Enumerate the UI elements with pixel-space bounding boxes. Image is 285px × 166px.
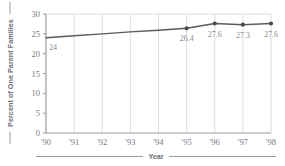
- data-point-value-label: 26.4: [180, 34, 194, 43]
- data-point-value-label: 27.3: [236, 31, 250, 40]
- data-point-labels: 2426.427.627.327.6: [49, 30, 278, 52]
- data-point-value-label: 27.6: [208, 30, 222, 39]
- y-axis-tick-label: 15: [32, 69, 41, 79]
- x-axis-tick-label: '95: [182, 137, 192, 147]
- y-axis-tick-label: 5: [36, 108, 40, 118]
- data-point-value-label: 27.6: [264, 30, 278, 39]
- y-axis-tick-label: 0: [36, 128, 40, 138]
- x-axis-tick-label: '97: [238, 137, 248, 147]
- data-point-marker: [241, 23, 245, 27]
- x-axis-title-rule-left: [36, 156, 143, 157]
- y-axis-tick-labels: 051015202530: [32, 9, 41, 138]
- x-axis-title-rule-right: [169, 156, 276, 157]
- data-point-value-label: 24: [49, 43, 57, 52]
- y-axis-tick-label: 30: [32, 9, 41, 19]
- y-axis-tick-label: 20: [32, 49, 41, 59]
- x-axis-tick-label: '92: [97, 137, 107, 147]
- x-axis-title-label: Year: [148, 152, 163, 161]
- plot-area: 051015202530 '90'91'92'93'94'95'96'97'98…: [0, 0, 285, 166]
- x-axis-tick-label: '90: [41, 137, 51, 147]
- y-axis-tick-label: 25: [32, 29, 41, 39]
- x-axis-tick-label: '91: [69, 137, 79, 147]
- x-axis-tick-label: '93: [125, 137, 135, 147]
- x-axis-tick-label: '96: [210, 137, 220, 147]
- data-point-marker: [185, 26, 189, 30]
- x-axis-tick-label: '94: [153, 137, 164, 147]
- line-chart: Percent of One Parent Families 051015202…: [0, 0, 285, 166]
- x-axis-tick-labels: '90'91'92'93'94'95'96'97'98: [41, 137, 276, 147]
- data-point-marker: [213, 21, 217, 25]
- x-axis-tick-label: '98: [266, 137, 276, 147]
- y-axis-tick-label: 10: [32, 88, 41, 98]
- x-axis-title: Year: [36, 150, 276, 162]
- data-point-marker: [269, 21, 273, 25]
